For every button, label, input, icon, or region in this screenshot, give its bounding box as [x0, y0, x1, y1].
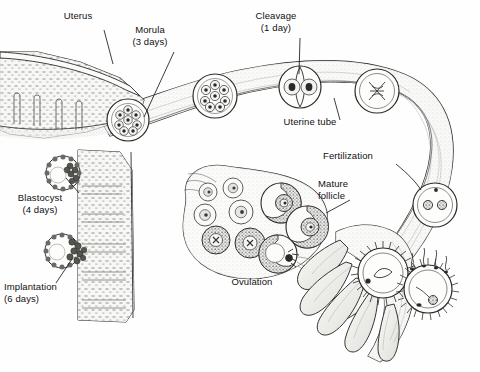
stage-zygote-pronuclei: [413, 183, 457, 227]
label-ovulation: Ovulation: [222, 276, 282, 288]
blastomere-right-nucleus: [306, 83, 313, 91]
follicle-primordial-2: [223, 178, 243, 198]
follicle-secondary-1: [202, 226, 230, 254]
stage-two-cell: [279, 66, 321, 108]
male-pronucleus: [429, 296, 438, 305]
fertilization-polar-body: [416, 303, 421, 307]
label-uterus: Uterus: [50, 10, 106, 22]
follicle-primary-1: [194, 204, 216, 226]
zygote-polar-body: [434, 188, 438, 192]
label-implantation: Implantation (6 days): [4, 281, 82, 304]
follicle-primordial-1: [199, 183, 217, 201]
figure-canvas: Uterus Morula (3 days) Cleavage (1 day) …: [0, 0, 480, 372]
stage-morula-right: [193, 74, 237, 118]
blastomere-left-nucleus: [289, 83, 296, 91]
label-morula: Morula (3 days): [118, 24, 182, 47]
label-mature-follicle: Mature follicle: [318, 178, 370, 201]
follicle-primary-2: [229, 200, 253, 224]
stage-dividing-zygote: [355, 69, 399, 113]
label-uterine-tube: Uterine tube: [278, 116, 342, 128]
ovulated-zona-pellucida: [358, 248, 408, 298]
ovulated-polar-body: [365, 278, 370, 283]
label-blastocyst: Blastocyst (4 days): [0, 192, 80, 215]
pronucleus-female: [423, 200, 432, 209]
label-cleavage: Cleavage (1 day): [244, 10, 308, 33]
label-fertilization: Fertilization: [316, 150, 380, 162]
anatomical-illustration: [0, 0, 480, 372]
stage-morula-left: [107, 99, 149, 141]
pronucleus-male: [437, 200, 446, 209]
uterus-lower-texture: [78, 150, 134, 322]
